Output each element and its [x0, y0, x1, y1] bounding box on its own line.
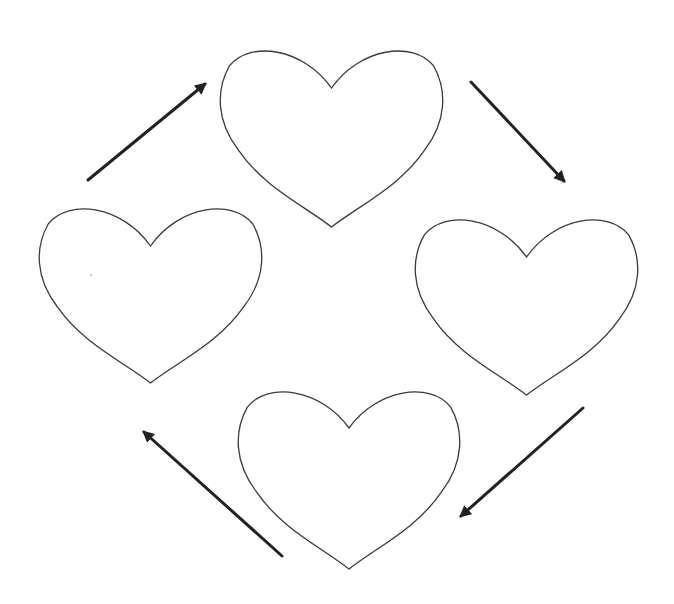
heart-left-shape [39, 209, 261, 383]
heart-bottom-shape [238, 392, 460, 569]
cycle-diagram [0, 0, 674, 604]
arrow-right-to-bottom [461, 408, 583, 516]
arrow-top-to-right [471, 82, 564, 181]
speck [90, 274, 92, 276]
heart-right-shape [415, 220, 637, 395]
heart-top-shape [220, 51, 442, 227]
arrow-left-to-top [88, 84, 205, 180]
